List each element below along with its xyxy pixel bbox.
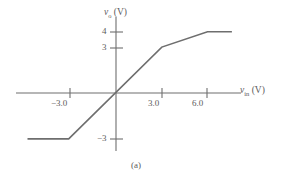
y-axis-subscript: o: [108, 12, 111, 19]
chart-plot-area: [0, 0, 281, 181]
y-tick-label-4: 4: [102, 27, 107, 36]
x-axis-unit: (V): [252, 85, 265, 95]
x-tick-label-3: 3.0: [148, 99, 159, 108]
y-tick-label-neg3: −3: [97, 134, 107, 143]
y-axis-title: vo (V): [104, 8, 127, 19]
x-tick-label-neg3: −3.0: [51, 99, 67, 108]
x-axis-title: vin (V): [240, 86, 265, 97]
y-axis-unit: (V): [114, 7, 127, 17]
y-tick-label-3: 3: [102, 43, 107, 52]
x-axis-subscript: in: [244, 90, 249, 97]
x-tick-label-6: 6.0: [192, 99, 203, 108]
figure-caption: (a): [131, 161, 141, 170]
transfer-curve: [28, 32, 232, 139]
figure-panel: vo (V) vin (V) 4 3 −3 −3.0 3.0 6.0 (a): [0, 0, 281, 181]
